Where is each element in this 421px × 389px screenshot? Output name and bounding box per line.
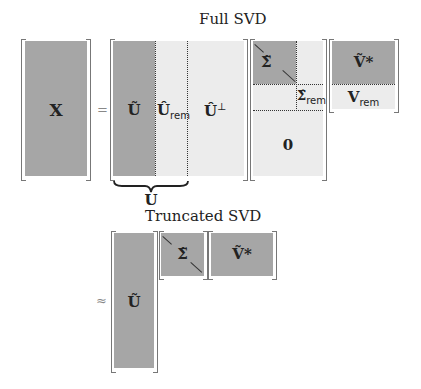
trunc-sigma-label: Σ̃ [161,245,204,263]
u-divider-1 [155,41,156,176]
x-label: X [25,100,87,120]
sigma-rem-label: Σ̂rem [297,88,326,106]
sigma-tilde-label: Σ̃ [261,53,272,71]
v-hdivider [332,84,395,85]
full-svd-title: Full SVD [199,10,267,28]
trunc-u-tilde-label: Ũ [114,293,154,311]
sigma-hdivider-1 [253,84,323,85]
u-rem-symbol: Û [157,101,170,119]
u-right-bracket [243,39,248,181]
sigma-right-bracket [322,39,327,181]
sigma-hdivider-2 [253,110,323,111]
svd-diagram: Full SVD X = Ũ Ûrem Û⊥ U Σ̃ Σ̂rem 0 Ṽ* V… [0,0,421,389]
approx-sign: ≈ [96,293,107,308]
sigma-rem-symbol: Σ̂ [297,88,306,103]
v-rem-subscript: rem [359,97,379,108]
equals-sign: = [97,102,108,117]
sigma-rem-subscript: rem [306,95,326,106]
v-rem-label: Vrem [332,88,395,108]
zero-label: 0 [253,136,323,154]
u-rem-subscript: rem [170,110,190,121]
v-tilde-label: Ṽ* [332,53,395,71]
u-perp-label: Û⊥ [204,101,227,120]
sigma-left-bracket [250,39,255,181]
u-rem-label: Ûrem [157,101,190,121]
trunc-v-label: Ṽ* [211,245,273,263]
u-perp-symbol: Û [204,102,217,120]
u-tilde-label: Ũ [113,101,155,119]
v-rem-symbol: V [348,88,360,106]
u-perp-superscript: ⊥ [217,101,226,112]
truncated-svd-title: Truncated SVD [145,207,261,225]
